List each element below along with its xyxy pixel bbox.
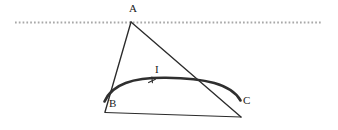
- current-arc: [105, 78, 241, 102]
- figure-vector-layer: [0, 0, 338, 130]
- vertex-label-b: B: [109, 98, 116, 109]
- current-label-i: I: [155, 64, 159, 75]
- triangle-side-bc: [105, 113, 241, 118]
- vertex-label-a: A: [129, 3, 137, 14]
- vertex-label-c: C: [243, 95, 250, 106]
- triangle-side-ac: [131, 22, 241, 117]
- arc-direction-tick-stem: [152, 77, 153, 83]
- geometry-figure-canvas: A B C I: [0, 0, 338, 130]
